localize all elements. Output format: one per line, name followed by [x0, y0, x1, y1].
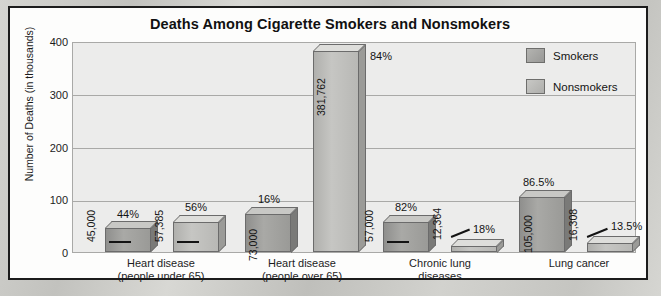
- legend-item-nonsmokers[interactable]: Nonsmokers: [526, 79, 646, 94]
- bar-nonsmokers-lung-cancer[interactable]: [587, 243, 633, 252]
- percent-label-smokers-heart-over65: 16%: [258, 193, 280, 205]
- bar-smokers-chronic-lung[interactable]: [383, 222, 429, 252]
- cat-label-line-1: Heart disease: [227, 257, 377, 270]
- value-label-smokers-heart-under65: 45,000: [85, 210, 97, 242]
- leader-line-smokers-chronic-lung: [387, 241, 409, 243]
- bar-front-face: [173, 222, 219, 252]
- x-axis-category-labels: Heart disease (people under 65) Heart di…: [72, 257, 636, 283]
- value-label-nonsmokers-chronic-lung: 12,364: [431, 208, 443, 240]
- bar-top-face: [173, 215, 226, 222]
- cat-label-heart-over65: Heart disease (people over 65): [227, 257, 377, 283]
- cat-label-line-2: (people over 65): [227, 270, 377, 283]
- percent-label-nonsmokers-chronic-lung: 18%: [473, 223, 495, 235]
- cat-label-line-2: (people under 65): [86, 270, 236, 283]
- legend-swatch-nonsmokers: [526, 79, 545, 94]
- cat-label-heart-under65: Heart disease (people under 65): [86, 257, 236, 283]
- y-tick-300: 300: [34, 89, 68, 101]
- bar-nonsmokers-chronic-lung[interactable]: [451, 246, 497, 253]
- leader-line-smokers-heart-under65: [109, 241, 131, 243]
- y-tick-0: 0: [34, 247, 68, 259]
- legend-item-smokers[interactable]: Smokers: [526, 48, 646, 63]
- legend-label-smokers: Smokers: [553, 50, 598, 62]
- percent-label-smokers-chronic-lung: 82%: [395, 201, 417, 213]
- cat-label-line-1: Heart disease: [86, 257, 236, 270]
- y-axis-tick-labels: 0 100 200 300 400: [28, 42, 68, 253]
- bar-top-face: [519, 190, 572, 197]
- value-label-nonsmokers-lung-cancer: 16,308: [567, 209, 579, 241]
- percent-label-smokers-heart-under65: 44%: [117, 208, 139, 220]
- bar-top-face: [451, 239, 504, 246]
- bar-front-face: [451, 246, 497, 253]
- bar-top-face: [383, 215, 436, 222]
- legend-swatch-smokers: [526, 48, 545, 63]
- value-label-nonsmokers-heart-under65: 57,385: [153, 210, 165, 242]
- y-tick-100: 100: [34, 194, 68, 206]
- percent-label-nonsmokers-heart-under65: 56%: [185, 201, 207, 213]
- leader-line-nonsmokers-chronic-lung: [451, 229, 470, 238]
- cat-label-chronic-lung: Chronic lung diseases: [365, 257, 515, 283]
- leader-line-nonsmokers-heart-under65: [177, 241, 199, 243]
- value-label-smokers-chronic-lung: 57,000: [363, 210, 375, 242]
- percent-label-nonsmokers-heart-over65: 84%: [370, 50, 392, 62]
- percent-label-smokers-lung-cancer: 86.5%: [523, 176, 554, 188]
- legend-label-nonsmokers: Nonsmokers: [553, 81, 618, 93]
- percent-label-nonsmokers-lung-cancer: 13.5%: [611, 220, 642, 232]
- value-label-nonsmokers-heart-over65: 381,762: [315, 78, 327, 116]
- cat-label-line-1: Lung cancer: [504, 257, 654, 270]
- bar-side-face: [219, 215, 226, 252]
- chart-title: Deaths Among Cigarette Smokers and Nonsm…: [10, 16, 650, 32]
- y-tick-400: 400: [34, 36, 68, 48]
- bar-top-face: [245, 207, 298, 214]
- cat-label-line-2: diseases: [365, 270, 515, 283]
- cat-label-line-1: Chronic lung: [365, 257, 515, 270]
- bar-top-face: [313, 44, 366, 51]
- value-label-smokers-lung-cancer: 105,000: [522, 215, 534, 253]
- cat-label-lung-cancer: Lung cancer: [504, 257, 654, 270]
- legend: Smokers Nonsmokers: [526, 48, 646, 110]
- bar-front-face: [383, 222, 429, 252]
- bar-nonsmokers-heart-under65[interactable]: [173, 222, 219, 252]
- bar-front-face: [587, 243, 633, 252]
- bar-side-face: [291, 207, 298, 253]
- chart-card: Deaths Among Cigarette Smokers and Nonsm…: [8, 6, 648, 280]
- y-tick-200: 200: [34, 142, 68, 154]
